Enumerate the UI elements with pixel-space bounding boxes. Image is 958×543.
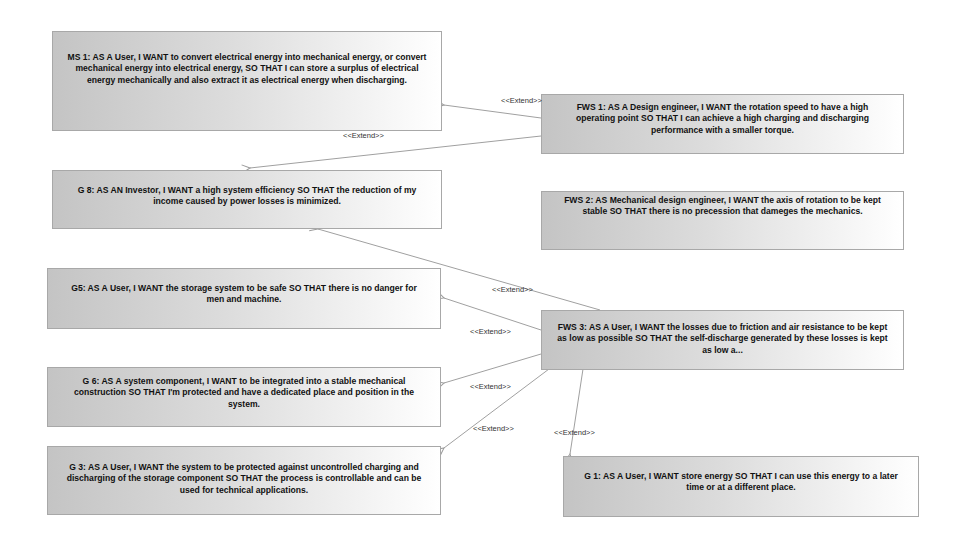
story-fws3-text: FWS 3: AS A User, I WANT the losses due … [556, 322, 889, 356]
extend-label-fws3-g8: <<Extend>> [492, 285, 533, 294]
story-g8[interactable]: G 8: AS AN Investor, I WANT a high syste… [52, 170, 442, 229]
extend-connector-fws1-ms1[interactable] [444, 105, 541, 118]
story-fws1-text: FWS 1: AS A Design engineer, I WANT the … [556, 102, 889, 136]
extend-connector-fws3-g3[interactable] [444, 369, 549, 448]
extend-connector-fws3-g5[interactable] [444, 298, 541, 330]
story-fws3[interactable]: FWS 3: AS A User, I WANT the losses due … [541, 310, 904, 370]
story-g6[interactable]: G 6: AS A system component, I WANT to be… [47, 367, 441, 427]
story-g1[interactable]: G 1: AS A User, I WANT store energy SO T… [563, 456, 919, 517]
story-g1-text: G 1: AS A User, I WANT store energy SO T… [578, 471, 904, 494]
extend-label-fws1-g8: <<Extend>> [343, 131, 384, 140]
story-g3[interactable]: G 3: AS A User, I WANT the system to be … [47, 446, 441, 515]
extend-connector-fws3-g1[interactable] [570, 369, 583, 454]
story-ms1-text: MS 1: AS A User, I WANT to convert elect… [67, 52, 427, 86]
extend-label-fws1-ms1: <<Extend>> [501, 96, 542, 105]
extend-label-fws3-g6: <<Extend>> [470, 382, 511, 391]
story-fws1[interactable]: FWS 1: AS A Design engineer, I WANT the … [541, 94, 904, 154]
story-ms1[interactable]: MS 1: AS A User, I WANT to convert elect… [52, 31, 442, 131]
story-g5-text: G5: AS A User, I WANT the storage system… [62, 283, 426, 306]
extend-label-fws3-g1: <<Extend>> [554, 428, 595, 437]
story-fws2[interactable]: FWS 2: AS Mechanical design engineer, I … [541, 191, 904, 250]
story-g8-text: G 8: AS AN Investor, I WANT a high syste… [67, 185, 427, 208]
extend-connector-fws3-g6[interactable] [444, 354, 541, 383]
story-fws2-text: FWS 2: AS Mechanical design engineer, I … [556, 195, 889, 218]
story-g6-text: G 6: AS A system component, I WANT to be… [62, 376, 426, 410]
story-g5[interactable]: G5: AS A User, I WANT the storage system… [47, 268, 441, 329]
extend-label-fws3-g3: <<Extend>> [473, 424, 514, 433]
extend-label-fws3-g5: <<Extend>> [470, 327, 511, 336]
extend-connector-fws1-g8[interactable] [250, 136, 541, 168]
diagram-canvas: MS 1: AS A User, I WANT to convert elect… [0, 0, 958, 543]
story-g3-text: G 3: AS A User, I WANT the system to be … [62, 462, 426, 496]
